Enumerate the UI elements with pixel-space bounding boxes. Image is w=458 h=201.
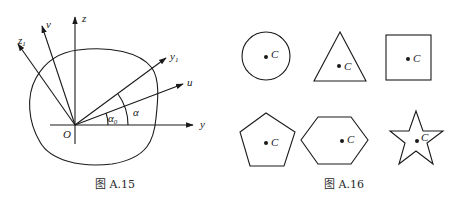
z1-axis bbox=[18, 44, 75, 125]
angle-arc-alpha bbox=[118, 94, 128, 125]
figure-caption-a16: 图 A.16 bbox=[324, 178, 364, 191]
centroid-dot bbox=[406, 57, 410, 61]
y1-axis bbox=[75, 58, 166, 125]
axis-label-u: u bbox=[187, 76, 193, 88]
figure-a16: C C C C C C 图 A.16 bbox=[240, 32, 443, 191]
figure-a15: z y v z1 y1 u O α0 α 图 A.15 bbox=[17, 12, 205, 191]
origin-label: O bbox=[63, 128, 71, 140]
shape-pentagon: C bbox=[240, 113, 295, 166]
centroid-dot bbox=[264, 55, 268, 59]
svg-text:C: C bbox=[271, 48, 279, 60]
shape-triangle: C bbox=[314, 32, 366, 81]
figure-caption-a15: 图 A.15 bbox=[95, 178, 135, 191]
v-axis bbox=[42, 26, 75, 125]
angle-label-alpha: α bbox=[133, 106, 139, 118]
centroid-dot bbox=[264, 141, 268, 145]
svg-text:C: C bbox=[344, 60, 352, 72]
svg-text:C: C bbox=[271, 136, 279, 148]
shape-square: C bbox=[386, 35, 431, 80]
axis-label-z: z bbox=[81, 12, 87, 24]
axis-label-v: v bbox=[46, 18, 51, 30]
shape-star: C bbox=[390, 111, 443, 164]
centroid-dot bbox=[415, 139, 419, 143]
centroid-dot bbox=[340, 139, 344, 143]
axis-label-y: y bbox=[199, 118, 205, 130]
shape-hexagon: C bbox=[301, 117, 368, 164]
centroid-dot bbox=[337, 64, 341, 68]
u-axis bbox=[75, 84, 183, 125]
axis-label-z1: z1 bbox=[17, 34, 26, 48]
svg-text:C: C bbox=[421, 131, 429, 143]
shape-circle: C bbox=[242, 32, 290, 80]
svg-text:C: C bbox=[347, 133, 355, 145]
svg-text:C: C bbox=[413, 52, 421, 64]
angle-label-alpha0: α0 bbox=[108, 112, 118, 126]
axis-label-y1: y1 bbox=[169, 50, 178, 64]
